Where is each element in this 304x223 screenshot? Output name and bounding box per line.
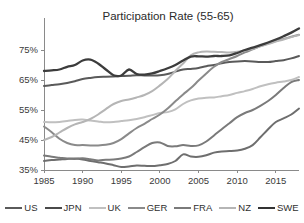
legend-line-swatch-swe [258, 207, 275, 209]
legend-item-nz[interactable]: NZ [219, 203, 251, 213]
legend-line-swatch-ger [128, 207, 145, 209]
x-tick-label: 1990 [72, 175, 93, 186]
y-axis-tick-labels: 35%45%55%65%75% [19, 44, 39, 175]
chart-legend: USJPNUKGERFRANZSWE [0, 190, 304, 223]
legend-line-swatch-uk [89, 207, 106, 209]
x-tick-label: 2005 [188, 175, 209, 186]
y-tick-label: 65% [19, 74, 39, 85]
x-axis-tick-labels: 1985199019952000200520102015 [33, 175, 286, 186]
x-tick-label: 2010 [227, 175, 248, 186]
series-line-nz [44, 35, 299, 140]
x-tick-label: 2000 [149, 175, 170, 186]
legend-label: FRA [193, 203, 212, 213]
chart-axes [41, 18, 299, 173]
legend-label: SWE [277, 203, 299, 213]
legend-item-ger[interactable]: GER [128, 203, 168, 213]
chart-series-lines [44, 28, 299, 167]
legend-item-us[interactable]: US [5, 203, 37, 213]
legend-item-swe[interactable]: SWE [258, 203, 299, 213]
y-tick-label: 75% [19, 44, 39, 55]
legend-item-fra[interactable]: FRA [174, 203, 212, 213]
x-tick-label: 1995 [111, 175, 132, 186]
series-line-ger [44, 35, 299, 146]
y-tick-label: 45% [19, 134, 39, 145]
x-tick-label: 1985 [33, 175, 54, 186]
y-tick-label: 55% [19, 104, 39, 115]
series-line-swe [44, 28, 299, 76]
legend-item-uk[interactable]: UK [89, 203, 121, 213]
legend-label: UK [108, 203, 121, 213]
legend-line-swatch-us [5, 207, 22, 209]
series-line-uk [44, 77, 299, 122]
chart-title: Participation Rate (55-65) [102, 10, 233, 22]
y-tick-label: 35% [19, 164, 39, 175]
legend-line-swatch-jpn [45, 207, 62, 209]
participation-rate-chart: Participation Rate (55-65) 35%45%55%65%7… [0, 0, 304, 223]
legend-item-jpn[interactable]: JPN [45, 203, 82, 213]
x-tick-label: 2015 [265, 175, 286, 186]
legend-label: NZ [238, 203, 251, 213]
legend-line-swatch-nz [219, 207, 236, 209]
legend-label: GER [147, 203, 168, 213]
chart-plot-area: Participation Rate (55-65) 35%45%55%65%7… [0, 0, 304, 190]
legend-label: US [24, 203, 37, 213]
legend-line-swatch-fra [174, 207, 191, 209]
legend-label: JPN [64, 203, 82, 213]
